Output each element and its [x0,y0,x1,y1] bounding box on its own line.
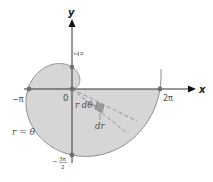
svg-text:3π: 3π [59,156,66,162]
neg-3pi-over-2-label: − 3π 2 [52,156,67,170]
point-neg-pi [27,87,32,92]
point-pi-over-2 [70,65,74,69]
spiral-area-diagram: x y 0 −π 2π π 2 − 3π 2 r = θ r dθ dr [0,0,213,182]
svg-text:−: − [52,158,58,166]
x-axis-label: x [198,84,206,95]
svg-text:2: 2 [73,52,79,56]
y-axis-label: y [68,7,75,18]
point-2pi [158,87,163,92]
curve-label: r = θ [12,127,36,137]
radial-length-label: dr [95,121,105,131]
x-axis-arrow-icon [188,86,196,93]
arc-length-label: r dθ [75,100,92,110]
origin-label: 0 [63,93,68,103]
point-neg-3pi-over-2 [70,153,75,158]
y-axis-arrow-icon [69,19,76,27]
svg-text:π: π [79,52,85,56]
two-pi-label: 2π [163,94,173,103]
svg-text:2: 2 [61,164,65,170]
point-origin [70,87,75,92]
pi-over-2-label: π 2 [73,52,86,57]
neg-pi-label: −π [12,95,24,104]
